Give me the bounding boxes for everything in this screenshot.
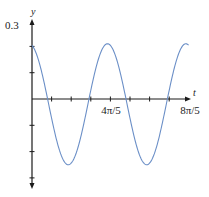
y-axis-arrow-down-icon — [30, 183, 35, 189]
x-tick-label-8pi5: 8π/5 — [180, 104, 200, 116]
x-axis-label: t — [193, 87, 196, 98]
y-axis-label: y — [30, 6, 36, 17]
x-axis-arrow-icon — [185, 97, 191, 102]
y-axis-arrow-up-icon — [30, 19, 35, 25]
y-max-label: 0.3 — [5, 19, 19, 31]
chart: y t 0.3 4π/5 8π/5 — [0, 0, 209, 197]
x-tick-label-4pi5: 4π/5 — [101, 104, 121, 116]
